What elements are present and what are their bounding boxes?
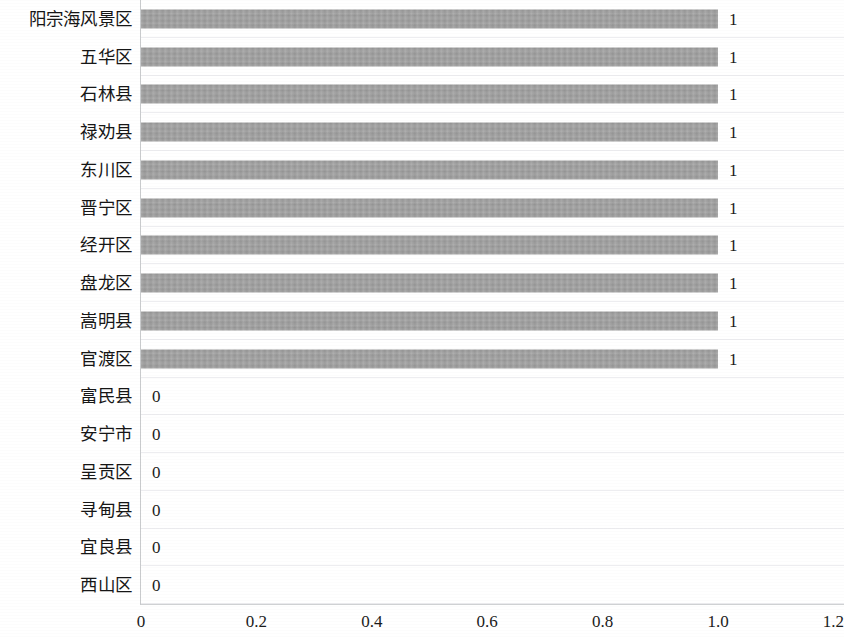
chart-row: 寻甸县0: [0, 491, 844, 529]
bar: [141, 123, 718, 142]
chart-row: 西山区0: [0, 566, 844, 604]
bar: [141, 47, 718, 66]
chart-row: 安宁市0: [0, 415, 844, 453]
chart-row: 阳宗海风景区1: [0, 0, 844, 38]
bar-value-label: 1: [729, 198, 738, 217]
bar: [141, 274, 718, 293]
bar-value-label: 0: [152, 538, 161, 557]
bar: [141, 160, 718, 179]
category-label: 西山区: [0, 575, 132, 595]
x-tick-label: 0.8: [592, 610, 613, 634]
x-tick-label: 0: [137, 610, 146, 634]
chart-row: 嵩明县1: [0, 302, 844, 340]
category-label: 官渡区: [0, 349, 132, 369]
bar-value-label: 0: [152, 462, 161, 481]
bar-value-label: 1: [729, 311, 738, 330]
bar-value-label: 1: [729, 47, 738, 66]
bar: [141, 9, 718, 28]
x-tick-label: 0.2: [246, 610, 267, 634]
bar-value-label: 0: [152, 576, 161, 595]
category-label: 安宁市: [0, 424, 132, 444]
bar-value-label: 1: [729, 123, 738, 142]
chart-row: 经开区1: [0, 227, 844, 265]
chart-row: 盘龙区1: [0, 264, 844, 302]
bar: [141, 85, 718, 104]
chart-row: 五华区1: [0, 38, 844, 76]
bar-value-label: 1: [729, 160, 738, 179]
gridline: [141, 603, 844, 604]
chart-rows: 阳宗海风景区1五华区1石林县1禄劝县1东川区1晋宁区1经开区1盘龙区1嵩明县1官…: [0, 0, 844, 604]
category-label: 禄劝县: [0, 122, 132, 142]
category-label: 嵩明县: [0, 311, 132, 331]
chart-row: 晋宁区1: [0, 189, 844, 227]
x-tick-label: 1.2: [823, 610, 844, 634]
category-label: 阳宗海风景区: [0, 9, 132, 29]
x-axis-tick-labels: 00.20.40.60.81.01.2: [0, 608, 844, 637]
bar-value-label: 0: [152, 425, 161, 444]
x-tick-label: 0.4: [361, 610, 382, 634]
category-label: 经开区: [0, 235, 132, 255]
chart-row: 富民县0: [0, 378, 844, 416]
bar: [141, 311, 718, 330]
bar: [141, 198, 718, 217]
chart-row: 石林县1: [0, 76, 844, 114]
x-tick-label: 0.6: [477, 610, 498, 634]
category-label: 石林县: [0, 84, 132, 104]
category-label: 五华区: [0, 47, 132, 67]
category-label: 寻甸县: [0, 500, 132, 520]
category-label: 宜良县: [0, 537, 132, 557]
bar: [141, 349, 718, 368]
x-axis-line: [141, 604, 844, 605]
x-tick-label: 1.0: [707, 610, 728, 634]
category-label: 呈贡区: [0, 462, 132, 482]
bar-value-label: 1: [729, 9, 738, 28]
chart-row: 禄劝县1: [0, 113, 844, 151]
bar: [141, 236, 718, 255]
chart-row: 东川区1: [0, 151, 844, 189]
bar-value-label: 1: [729, 274, 738, 293]
category-label: 东川区: [0, 160, 132, 180]
chart-row: 官渡区1: [0, 340, 844, 378]
category-label: 盘龙区: [0, 273, 132, 293]
bar-value-label: 0: [152, 387, 161, 406]
bar-value-label: 1: [729, 85, 738, 104]
chart-row: 呈贡区0: [0, 453, 844, 491]
category-label: 富民县: [0, 386, 132, 406]
chart-row: 宜良县0: [0, 529, 844, 567]
category-label: 晋宁区: [0, 198, 132, 218]
bar-value-label: 1: [729, 349, 738, 368]
bar-value-label: 0: [152, 500, 161, 519]
bar-value-label: 1: [729, 236, 738, 255]
horizontal-bar-chart: 阳宗海风景区1五华区1石林县1禄劝县1东川区1晋宁区1经开区1盘龙区1嵩明县1官…: [0, 0, 844, 637]
